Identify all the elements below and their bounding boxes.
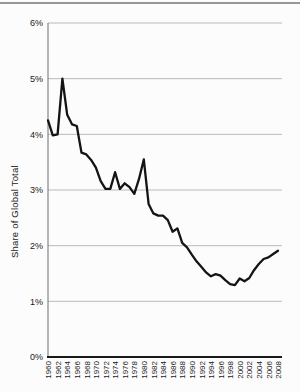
x-tick-label-1972: 1972	[102, 360, 111, 378]
x-tick-label-1962: 1962	[54, 360, 63, 378]
y-tick-label-5%: 5%	[30, 74, 43, 84]
y-tick-label-3%: 3%	[30, 185, 43, 195]
x-tick-label-1960: 1960	[44, 360, 53, 378]
x-tick-label-1968: 1968	[83, 360, 92, 378]
x-tick-label-1990: 1990	[188, 360, 197, 378]
x-tick-label-2006: 2006	[265, 360, 274, 378]
x-tick-label-1988: 1988	[178, 360, 187, 378]
x-tick-label-1964: 1964	[63, 360, 72, 378]
y-axis-title: Share of Global Total	[9, 165, 20, 258]
x-tick-label-1986: 1986	[169, 360, 178, 378]
y-tick-label-1%: 1%	[30, 297, 43, 307]
x-tick-label-2000: 2000	[236, 360, 245, 378]
y-tick-label-0%: 0%	[30, 352, 43, 362]
x-tick-label-1992: 1992	[198, 360, 207, 378]
x-tick-label-1998: 1998	[226, 360, 235, 378]
page: 0%1%2%3%4%5%6%19601962196419661968197019…	[0, 0, 300, 392]
x-tick-label-1982: 1982	[150, 360, 159, 378]
x-tick-label-1966: 1966	[73, 360, 82, 378]
x-tick-label-1978: 1978	[130, 360, 139, 378]
x-tick-label-1996: 1996	[217, 360, 226, 378]
x-tick-label-2004: 2004	[255, 360, 264, 378]
x-tick-label-1976: 1976	[121, 360, 130, 378]
x-tick-label-1980: 1980	[140, 360, 149, 378]
share-of-global-total-chart: 0%1%2%3%4%5%6%19601962196419661968197019…	[0, 0, 300, 392]
x-tick-label-1994: 1994	[207, 360, 216, 378]
data-line-share-of-global-total	[48, 79, 278, 286]
y-tick-label-2%: 2%	[30, 241, 43, 251]
y-tick-label-4%: 4%	[30, 130, 43, 140]
x-tick-label-1974: 1974	[111, 360, 120, 378]
x-tick-label-1984: 1984	[159, 360, 168, 378]
y-tick-label-6%: 6%	[30, 18, 43, 28]
x-tick-label-1970: 1970	[92, 360, 101, 378]
x-tick-label-2008: 2008	[274, 360, 283, 378]
x-tick-label-2002: 2002	[245, 360, 254, 378]
